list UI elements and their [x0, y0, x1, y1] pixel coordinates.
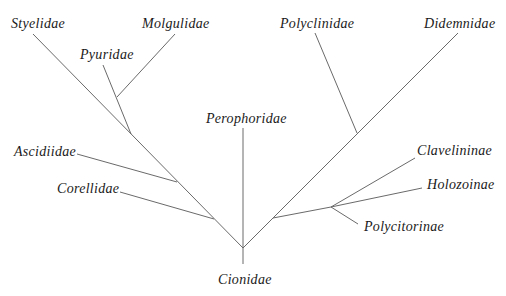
- label-didemnidae: Didemnidae: [424, 16, 495, 32]
- branch-pyuridae: [103, 65, 131, 134]
- branch-polyclinidae: [315, 33, 357, 133]
- branch-molgulidae: [117, 34, 175, 97]
- branch-clavelininae: [331, 158, 415, 207]
- label-cionidae: Cionidae: [218, 272, 272, 288]
- label-holozoinae: Holozoinae: [427, 177, 495, 193]
- branch-polycitorinae: [331, 207, 358, 224]
- branch-corellidae: [120, 192, 214, 219]
- label-corellidae: Corellidae: [57, 181, 119, 197]
- label-polycitorinae: Polycitorinae: [364, 219, 444, 235]
- label-styelidae: Styelidae: [11, 16, 65, 32]
- branch-ascidiidae: [77, 154, 177, 182]
- label-perophoridae: Perophoridae: [206, 111, 287, 127]
- label-pyuridae: Pyuridae: [80, 47, 134, 63]
- branch-right-main: [243, 33, 458, 248]
- branch-left-main: [33, 34, 243, 248]
- branch-holozoinae: [331, 188, 422, 207]
- label-clavelininae: Clavelininae: [417, 143, 492, 159]
- label-ascidiidae: Ascidiidae: [14, 144, 76, 160]
- label-polyclinidae: Polyclinidae: [280, 16, 354, 32]
- label-molgulidae: Molgulidae: [142, 16, 210, 32]
